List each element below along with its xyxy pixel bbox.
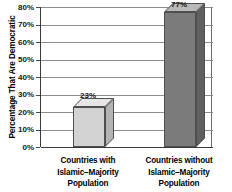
category-label-2-line-3: Population xyxy=(130,178,228,190)
bar-chart-figure: Percentage That Are Democratic 80% 70% 6… xyxy=(0,0,232,192)
category-label-2-line-2: Islamic–Majority xyxy=(130,167,228,179)
bar-front-face-2 xyxy=(164,12,196,147)
y-tick-label-10: 10% xyxy=(0,125,34,134)
y-tick-label-70: 70% xyxy=(0,20,34,29)
category-label-1-line-1: Countries with xyxy=(39,155,137,167)
y-tick-label-40: 40% xyxy=(0,73,34,82)
plot-area xyxy=(40,7,212,147)
y-tick-mark-0 xyxy=(36,147,40,148)
y-tick-label-0: 0% xyxy=(0,143,34,152)
y-tick-label-50: 50% xyxy=(0,55,34,64)
category-label-non-islamic-majority: Countries without Islamic–Majority Popul… xyxy=(130,155,228,190)
bar-front-face-1 xyxy=(73,107,105,147)
bar-side-face-2 xyxy=(196,3,205,147)
category-label-1-line-2: Islamic–Majority xyxy=(39,167,137,179)
y-tick-label-60: 60% xyxy=(0,38,34,47)
y-tick-label-20: 20% xyxy=(0,108,34,117)
category-label-1-line-3: Population xyxy=(39,178,137,190)
y-tick-label-80: 80% xyxy=(0,3,34,12)
bar-non-islamic-majority[interactable] xyxy=(164,7,205,147)
bar-islamic-majority[interactable] xyxy=(73,7,114,147)
category-label-2-line-1: Countries without xyxy=(130,155,228,167)
y-tick-label-30: 30% xyxy=(0,90,34,99)
category-label-islamic-majority: Countries with Islamic–Majority Populati… xyxy=(39,155,137,190)
value-label-bar-2: 77% xyxy=(157,0,201,9)
value-label-bar-1: 23% xyxy=(66,91,110,100)
